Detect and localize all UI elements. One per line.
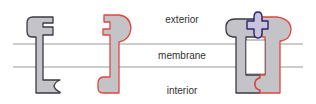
exterior-label: exterior — [147, 14, 217, 26]
right-protein-shape — [98, 15, 131, 93]
membrane-label: membrane — [147, 50, 217, 62]
interior-label: interior — [147, 85, 217, 97]
complex-channel-gap — [246, 40, 265, 74]
left-protein-shape — [27, 17, 60, 93]
membrane-protein-diagram: exterior membrane interior — [0, 0, 316, 104]
